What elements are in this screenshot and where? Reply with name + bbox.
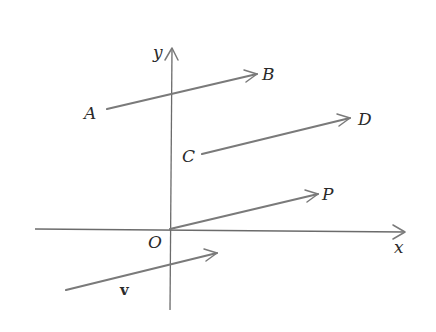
- label-x: x: [394, 237, 404, 257]
- y-axis: [165, 48, 178, 310]
- label-origin: O: [148, 232, 162, 252]
- label-y: y: [152, 42, 163, 62]
- label-c: C: [182, 146, 195, 166]
- label-d: D: [357, 109, 372, 129]
- x-axis: [35, 225, 405, 239]
- label-v: v: [119, 281, 130, 299]
- vector-cd: [202, 114, 350, 154]
- label-a: A: [82, 103, 96, 123]
- vector-diagram: y A B C D P O x v: [0, 0, 436, 332]
- vector-ab: [107, 70, 257, 109]
- vector-op: [170, 190, 318, 229]
- label-b: B: [261, 64, 275, 84]
- vector-v: [66, 249, 217, 290]
- label-p: P: [321, 184, 334, 204]
